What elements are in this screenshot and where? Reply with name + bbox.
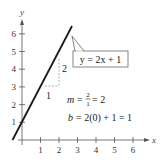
- x-tick-label: 1: [38, 145, 43, 155]
- chart: 1 2 3 4 5 6 x 1 2 3 4 5 6 y 2 1 y = 2x +…: [0, 0, 164, 166]
- m-variable: m: [67, 94, 74, 105]
- y-tick-label: 6: [12, 29, 17, 39]
- b-variable: b: [68, 112, 73, 123]
- m-result: = 2: [92, 94, 105, 105]
- y-tick-label: 3: [12, 82, 17, 92]
- slope-equation: m = 2 1 = 2: [67, 91, 105, 108]
- run-label: 1: [46, 90, 51, 101]
- y-axis-arrow-icon: [20, 19, 24, 25]
- x-tick-label: 3: [75, 145, 80, 155]
- m-equals: =: [77, 94, 83, 105]
- y-tick-label: 4: [12, 64, 17, 74]
- x-axis-arrow-icon: [144, 138, 150, 142]
- x-tick-label: 4: [94, 145, 99, 155]
- x-tick-label: 5: [112, 145, 117, 155]
- y-tick-labels: 1 2 3 4 5 6: [12, 29, 17, 128]
- intercept-equation: b = 2(0) + 1 = 1: [68, 112, 132, 124]
- m-numerator: 2: [86, 91, 90, 99]
- x-tick-label: 6: [131, 145, 136, 155]
- y-axis-label: y: [19, 7, 24, 17]
- y-tick-label: 1: [12, 117, 17, 127]
- rise-label: 2: [62, 63, 67, 74]
- x-tick-label: 2: [57, 145, 62, 155]
- equation-callout: y = 2x + 1: [72, 36, 128, 67]
- line-y-2x-plus-1: [13, 26, 73, 140]
- m-denominator: 1: [86, 100, 90, 108]
- y-tick-label: 2: [12, 100, 17, 110]
- callout-text: y = 2x + 1: [80, 54, 121, 65]
- y-tick-label: 5: [12, 47, 17, 57]
- x-axis: [18, 138, 150, 142]
- x-axis-label: x: [151, 135, 156, 145]
- b-rhs: = 2(0) + 1 = 1: [76, 112, 132, 124]
- x-tick-labels: 1 2 3 4 5 6: [38, 145, 136, 155]
